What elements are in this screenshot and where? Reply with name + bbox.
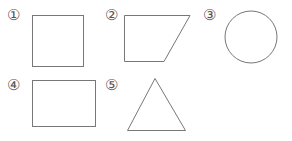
shape-square — [33, 16, 84, 67]
shape-trapezoid — [125, 16, 191, 62]
shape-circle — [225, 11, 277, 63]
shapes-canvas — [0, 0, 292, 141]
shape-rectangle — [33, 81, 96, 127]
shape-triangle — [128, 79, 186, 131]
